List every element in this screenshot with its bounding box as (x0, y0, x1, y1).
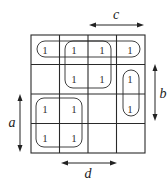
arrow-right-icon (137, 23, 144, 28)
variable-d-indicator: d (61, 161, 117, 182)
cell-r2-c1: 1 (71, 103, 77, 115)
label-c: c (113, 7, 120, 22)
label-d: d (85, 166, 93, 181)
cell-r3-c1: 1 (71, 132, 77, 144)
cell-r0-c3: 1 (127, 44, 133, 56)
arrow-left-icon (89, 23, 96, 28)
cell-r1-c2: 1 (99, 73, 105, 85)
arrow-down-icon (18, 145, 23, 152)
karnaugh-map-diagram: 1 1 1 1 1 1 1 1 1 1 1 1 c (0, 0, 168, 188)
cell-r1-c3: 1 (127, 73, 133, 85)
variable-b-indicator: b (153, 64, 167, 121)
cell-r3-c0: 1 (42, 132, 48, 144)
arrow-up-icon (18, 94, 23, 101)
label-a: a (9, 115, 16, 130)
arrow-left-icon (61, 161, 68, 166)
cell-r0-c1: 1 (71, 44, 77, 56)
cell-r2-c3: 1 (127, 103, 133, 115)
cell-r0-c0: 1 (42, 44, 48, 56)
arrow-up-icon (153, 64, 158, 71)
cell-r2-c0: 1 (42, 103, 48, 115)
variable-c-indicator: c (89, 7, 144, 28)
label-b: b (160, 86, 167, 101)
variable-a-indicator: a (9, 94, 23, 152)
cell-r0-c2: 1 (99, 44, 105, 56)
arrow-down-icon (153, 114, 158, 121)
arrow-right-icon (110, 161, 117, 166)
cell-r1-c1: 1 (71, 73, 77, 85)
